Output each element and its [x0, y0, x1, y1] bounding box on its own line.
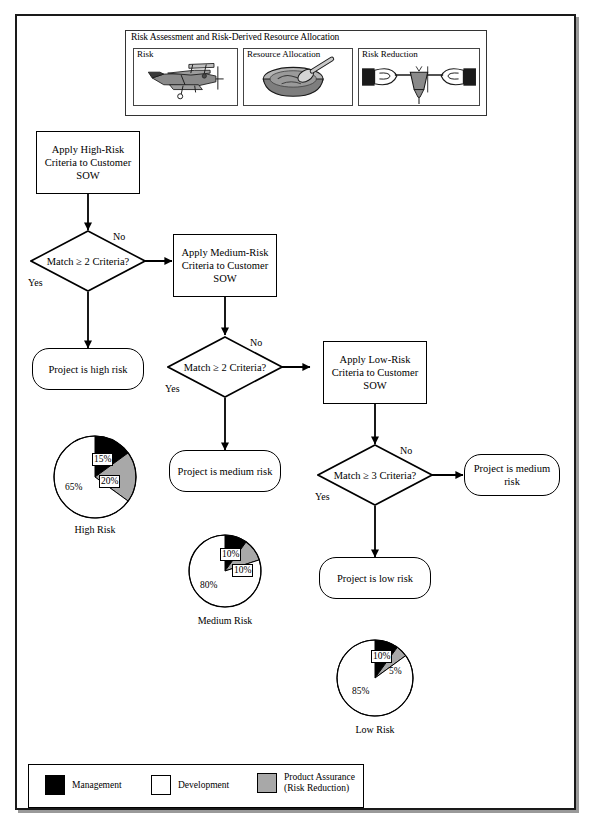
legend-label-management: Management [72, 780, 122, 791]
pie-slice-label-medium-development: 80% [199, 580, 218, 591]
diagram-page: Risk Assessment and Risk-Derived Resourc… [0, 0, 594, 827]
header-panel-resource-allocation-label: Resource Allocation [247, 49, 320, 59]
process-apply-medium-risk-criteria[interactable]: Apply Medium-Risk Criteria to Customer S… [173, 234, 277, 297]
pie-chart-high-risk-title: High Risk [52, 524, 138, 535]
pie-slice-label-low-management: 10% [371, 650, 392, 663]
process-apply-medium-risk-criteria-label: Apply Medium-Risk Criteria to Customer S… [174, 246, 276, 285]
legend: Management Development Product Assurance… [28, 764, 364, 808]
result-project-is-low-risk[interactable]: Project is low risk [319, 557, 431, 599]
pie-slice-label-low-product-assurance: 5% [388, 666, 403, 677]
pie-slice-label-high-management: 15% [92, 453, 113, 466]
edge-label-low-yes: Yes [315, 491, 330, 502]
process-apply-high-risk-criteria-label: Apply High-Risk Criteria to Customer SOW [37, 143, 139, 182]
result-project-is-high-risk[interactable]: Project is high risk [32, 348, 144, 390]
legend-label-development: Development [178, 780, 229, 791]
header-panel-risk: Risk [133, 48, 238, 106]
edge-label-medium-yes: Yes [165, 383, 180, 394]
legend-swatch-product-assurance [257, 773, 277, 793]
result-project-is-medium-risk-label: Project is medium risk [178, 465, 273, 478]
header-panel-resource-allocation: Resource Allocation [243, 48, 353, 106]
pie-chart-medium-risk-title: Medium Risk [187, 615, 263, 626]
header-title: Risk Assessment and Risk-Derived Resourc… [131, 32, 339, 42]
edge-label-medium-no: No [250, 337, 262, 348]
legend-swatch-management [45, 775, 65, 795]
header-panel-risk-reduction: Risk Reduction [358, 48, 480, 106]
pie-slice-label-medium-product-assurance: 10% [232, 564, 253, 577]
pie-slice-label-high-product-assurance: 20% [99, 475, 120, 488]
decision-high-risk-match[interactable]: Match ≥ 2 Criteria? [30, 230, 146, 292]
pie-chart-low-risk-title: Low Risk [335, 724, 415, 735]
edge-label-high-yes: Yes [28, 277, 43, 288]
result-low-branch-medium-risk-label: Project is medium risk [465, 462, 559, 488]
pie-slice-label-high-development: 65% [64, 482, 83, 493]
pie-chart-high-risk-graphic [52, 434, 138, 520]
result-low-branch-medium-risk[interactable]: Project is medium risk [464, 454, 560, 496]
header-panel-risk-label: Risk [137, 49, 154, 59]
result-project-is-high-risk-label: Project is high risk [48, 363, 127, 376]
result-project-is-low-risk-label: Project is low risk [337, 572, 413, 585]
process-apply-low-risk-criteria-label: Apply Low-Risk Criteria to Customer SOW [324, 353, 426, 392]
header-panel-risk-reduction-label: Risk Reduction [362, 49, 418, 59]
header-illustration-panel: Risk Assessment and Risk-Derived Resourc… [125, 30, 487, 116]
process-apply-low-risk-criteria[interactable]: Apply Low-Risk Criteria to Customer SOW [323, 341, 427, 404]
decision-low-risk-match[interactable]: Match ≥ 3 Criteria? [317, 444, 433, 506]
legend-label-product-assurance: Product Assurance (Risk Reduction) [284, 772, 355, 794]
result-project-is-medium-risk[interactable]: Project is medium risk [169, 450, 281, 492]
legend-item-management: Management [45, 775, 122, 795]
decision-medium-risk-match[interactable]: Match ≥ 2 Criteria? [167, 336, 283, 398]
process-apply-high-risk-criteria[interactable]: Apply High-Risk Criteria to Customer SOW [36, 131, 140, 194]
edge-label-high-no: No [113, 231, 125, 242]
pie-chart-medium-risk: 10% 10% 80% Medium Risk [187, 533, 263, 629]
legend-swatch-development [151, 775, 171, 795]
pie-chart-low-risk: 10% 5% 85% Low Risk [335, 638, 415, 738]
pie-slice-label-low-development: 85% [351, 686, 370, 697]
pie-slice-label-medium-management: 10% [220, 548, 241, 561]
legend-item-product-assurance: Product Assurance (Risk Reduction) [257, 772, 355, 794]
pie-chart-high-risk: 15% 20% 65% High Risk [52, 434, 138, 538]
legend-item-development: Development [151, 775, 229, 795]
edge-label-low-no: No [400, 445, 412, 456]
